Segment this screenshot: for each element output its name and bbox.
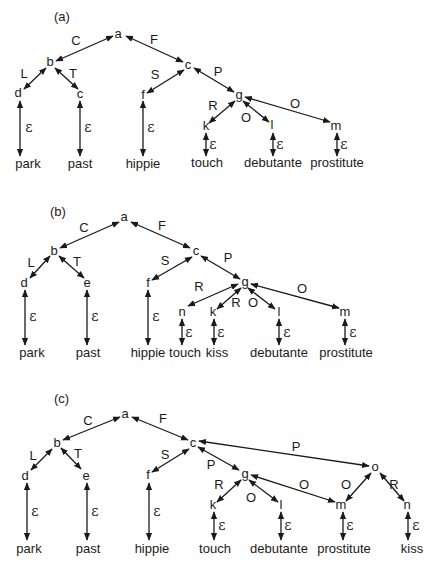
- tree-node-l: l: [271, 117, 274, 132]
- edge-label: O: [248, 295, 258, 310]
- epsilon-edge-label: ε: [218, 517, 225, 533]
- edge-label: F: [158, 218, 166, 233]
- panel-label: (a): [54, 9, 70, 24]
- edge-label: S: [151, 67, 160, 82]
- edge-label: O: [290, 96, 300, 111]
- diagram-panel-c: (c)CFLTSPPROOORεεεεεεεabdecfgklmonparkpa…: [16, 391, 423, 556]
- leaf-word: past: [76, 541, 101, 556]
- bidirectional-arrow-edge: [201, 256, 240, 279]
- tree-node-l: l: [280, 497, 283, 512]
- tree-node-a: a: [120, 209, 128, 224]
- edge-label: L: [20, 66, 27, 81]
- leaf-word: past: [68, 156, 93, 171]
- tree-node-m: m: [331, 118, 342, 133]
- leaf-word: touch: [191, 155, 223, 170]
- tree-node-c: c: [193, 243, 200, 258]
- edge-label: R: [208, 98, 217, 113]
- tree-node-m: m: [340, 304, 351, 319]
- edge-label: O: [299, 477, 309, 492]
- tree-node-k: k: [203, 118, 210, 133]
- tree-node-d: d: [14, 85, 21, 100]
- edge-label: F: [150, 32, 158, 47]
- leaf-word: kiss: [206, 345, 229, 360]
- leaf-word: park: [15, 156, 41, 171]
- epsilon-edge-label: ε: [346, 517, 353, 533]
- edge-label: O: [241, 110, 251, 125]
- tree-node-n: n: [403, 497, 410, 512]
- epsilon-edge-label: ε: [209, 136, 216, 152]
- epsilon-edge-label: ε: [152, 308, 159, 324]
- tree-node-d: d: [21, 468, 28, 483]
- tree-node-m: m: [336, 497, 347, 512]
- edge-label: T: [69, 66, 77, 81]
- edge-label: F: [159, 411, 167, 426]
- tree-node-a: a: [121, 406, 129, 421]
- tree-node-g: g: [235, 87, 242, 102]
- edge-label: C: [83, 413, 92, 428]
- tree-node-k: k: [210, 497, 217, 512]
- tree-node-f: f: [146, 275, 150, 290]
- epsilon-edge-label: ε: [29, 308, 36, 324]
- edge-label: P: [214, 64, 223, 79]
- epsilon-edge-label: ε: [340, 136, 347, 152]
- edge-label: S: [161, 253, 170, 268]
- edge-label: R: [214, 477, 223, 492]
- epsilon-edge-label: ε: [284, 517, 291, 533]
- tree-node-a: a: [114, 26, 122, 41]
- leaf-word: touch: [199, 541, 231, 556]
- epsilon-edge-label: ε: [283, 324, 290, 340]
- epsilon-edge-label: ε: [91, 503, 98, 519]
- leaf-word: prostitute: [310, 155, 363, 170]
- leaf-word: touch: [169, 345, 201, 360]
- leaf-word: hippie: [135, 541, 170, 556]
- epsilon-edge-label: ε: [349, 324, 356, 340]
- bidirectional-arrow-edge: [251, 284, 339, 308]
- leaf-word: park: [19, 345, 45, 360]
- tree-node-g: g: [241, 274, 248, 289]
- leaf-word: past: [76, 345, 101, 360]
- tree-node-b: b: [50, 243, 57, 258]
- tree-node-e: e: [82, 468, 89, 483]
- edge-label: P: [292, 439, 301, 454]
- tree-node-d: d: [20, 275, 27, 290]
- bidirectional-arrow-edge: [152, 257, 192, 280]
- edge-label: L: [29, 448, 36, 463]
- edge-label: R: [194, 279, 203, 294]
- tree-node-o: o: [371, 459, 378, 474]
- leaf-word: debutante: [250, 345, 308, 360]
- epsilon-edge-label: ε: [91, 308, 98, 324]
- leaf-word: prostitute: [319, 345, 372, 360]
- bidirectional-arrow-edge: [152, 449, 189, 472]
- diagram-panel-b: (b)CFLTSPRROOεεεεεεεabdecfgnklmparkpasth…: [19, 204, 372, 360]
- leaf-word: debutante: [250, 541, 308, 556]
- edge-label: S: [161, 447, 170, 462]
- edge-label: O: [297, 281, 307, 296]
- tree-node-c: c: [185, 57, 192, 72]
- epsilon-edge-label: ε: [185, 324, 192, 340]
- leaf-word: debutante: [244, 155, 302, 170]
- tree-node-e: e: [83, 275, 90, 290]
- edge-label: L: [27, 255, 34, 270]
- panel-label: (b): [50, 204, 66, 219]
- edge-label: P: [224, 250, 233, 265]
- bidirectional-arrow-edge: [198, 447, 239, 470]
- leaf-word: hippie: [131, 345, 166, 360]
- leaf-word: park: [16, 541, 42, 556]
- epsilon-edge-label: ε: [412, 517, 419, 533]
- edge-label: R: [231, 295, 240, 310]
- epsilon-edge-label: ε: [153, 503, 160, 519]
- tree-node-n: n: [178, 304, 185, 319]
- epsilon-edge-label: ε: [276, 136, 283, 152]
- tree-node-c1: c: [77, 86, 84, 101]
- bidirectional-arrow-edge: [251, 475, 335, 502]
- epsilon-edge-label: ε: [31, 503, 38, 519]
- bidirectional-arrow-edge: [60, 222, 119, 248]
- tree-node-c: c: [190, 435, 197, 450]
- epsilon-edge-label: ε: [147, 119, 154, 135]
- tree-node-l: l: [278, 304, 281, 319]
- diagram-canvas: (a)CFLTSPROOεεεεεεabdccfgklmparkpasthipp…: [0, 0, 439, 568]
- epsilon-edge-label: ε: [84, 119, 91, 135]
- tree-node-f: f: [141, 87, 145, 102]
- diagram-panel-a: (a)CFLTSPROOεεεεεεabdccfgklmparkpasthipp…: [14, 9, 363, 171]
- edge-label: O: [246, 490, 256, 505]
